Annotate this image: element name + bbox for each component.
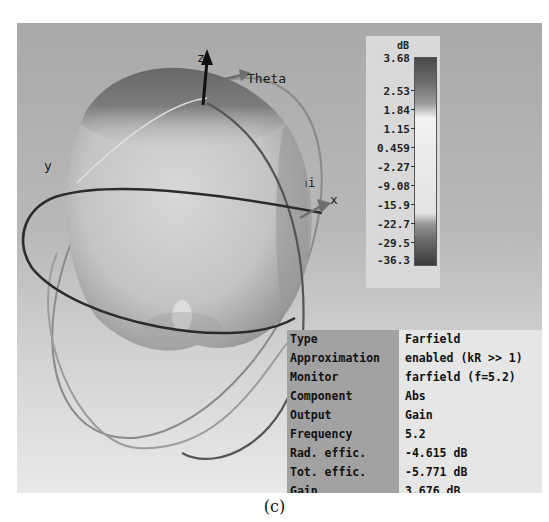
legend-tick (411, 147, 415, 148)
farfield-3d-viewport[interactable]: z Theta y x Phi dB 3.68 2.53 1.84 1.15 0… (17, 23, 542, 493)
info-row-gain: Gain3.676 dB (287, 484, 542, 493)
info-key: Rad. effic. (290, 446, 366, 460)
info-key: Component (290, 389, 352, 403)
legend-tick (411, 185, 415, 186)
info-row-rad-effic: Rad. effic.-4.615 dB (287, 446, 542, 465)
legend-tick-label: -15.9 (377, 199, 410, 212)
info-row-output: OutputGain (287, 408, 542, 427)
info-key: Monitor (290, 370, 338, 384)
info-key: Approximation (290, 351, 380, 365)
info-value: 3.676 dB (405, 484, 460, 493)
color-scale-bar (414, 57, 437, 266)
info-value: farfield (f=5.2) (405, 370, 516, 384)
info-row-monitor: Monitorfarfield (f=5.2) (287, 370, 542, 389)
legend-tick (411, 128, 415, 129)
legend-tick (411, 90, 415, 91)
legend-tick-label: -9.08 (377, 180, 410, 193)
legend-unit: dB (366, 40, 440, 51)
info-row-approximation: Approximationenabled (kR >> 1) (287, 351, 542, 370)
info-key: Output (290, 408, 332, 422)
x-axis-label: x (330, 192, 338, 207)
info-row-frequency: Frequency5.2 (287, 427, 542, 446)
legend-tick (411, 204, 415, 205)
legend-tick-label: 1.84 (384, 104, 411, 117)
figure-caption: (c) (0, 497, 549, 516)
z-axis-label: z (197, 50, 205, 65)
info-row-type: TypeFarfield (287, 332, 542, 351)
info-key: Gain (290, 484, 318, 493)
legend-tick (411, 166, 415, 167)
info-value: -4.615 dB (405, 446, 467, 460)
info-value: Farfield (405, 332, 460, 346)
info-row-component: ComponentAbs (287, 389, 542, 408)
legend-tick-label: 3.68 (384, 52, 411, 65)
legend-tick-label: 0.459 (377, 142, 410, 155)
theta-label: Theta (247, 71, 286, 86)
info-key: Type (290, 332, 318, 346)
farfield-info-table: TypeFarfield Approximationenabled (kR >>… (287, 330, 542, 493)
legend-tick (411, 109, 415, 110)
info-value: -5.771 dB (405, 465, 467, 479)
y-axis-label: y (44, 158, 52, 173)
info-value: 5.2 (405, 427, 426, 441)
info-value: enabled (kR >> 1) (405, 351, 523, 365)
legend-tick-label: 1.15 (384, 123, 411, 136)
legend-tick-label: -22.7 (377, 218, 410, 231)
color-scale-legend: dB 3.68 2.53 1.84 1.15 0.459 -2.27 -9.08… (366, 36, 440, 288)
info-value: Gain (405, 408, 433, 422)
info-key: Tot. effic. (290, 465, 366, 479)
info-key: Frequency (290, 427, 352, 441)
legend-tick-label: -2.27 (377, 161, 410, 174)
info-value: Abs (405, 389, 426, 403)
info-row-tot-effic: Tot. effic.-5.771 dB (287, 465, 542, 484)
legend-tick (411, 223, 415, 224)
legend-tick-label: 2.53 (384, 85, 411, 98)
legend-tick-label: -29.5 (377, 237, 410, 250)
legend-tick-label: -36.3 (377, 254, 410, 267)
legend-tick (411, 242, 415, 243)
